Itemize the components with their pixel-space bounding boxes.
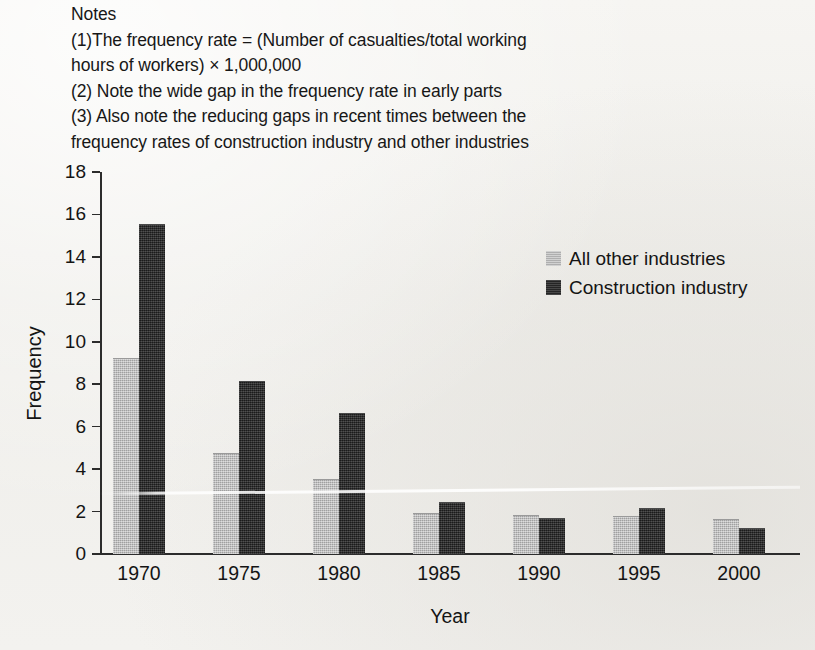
y-tick-0 — [92, 553, 100, 555]
y-tick-8 — [92, 383, 100, 385]
chart-legend: All other industries Construction indust… — [546, 244, 747, 302]
bar-1985-all-other-industries[interactable] — [413, 513, 439, 554]
bar-1995-all-other-industries[interactable] — [613, 516, 639, 554]
bar-1970-construction-industry[interactable] — [139, 224, 165, 554]
y-tick-2 — [92, 511, 100, 513]
bar-1970-all-other-industries[interactable] — [113, 358, 139, 554]
bar-group-1990 — [513, 172, 565, 554]
legend-item-all-other-industries[interactable]: All other industries — [546, 244, 747, 273]
bar-group-1995 — [613, 172, 665, 554]
notes-heading: Notes — [71, 2, 691, 28]
plot-area — [100, 172, 800, 554]
legend-item-construction-industry[interactable]: Construction industry — [546, 273, 747, 302]
note-line-2: (2) Note the wide gap in the frequency r… — [71, 79, 691, 105]
bar-1990-construction-industry[interactable] — [539, 518, 565, 554]
y-tick-16 — [92, 214, 100, 216]
x-tick-label-2000: 2000 — [679, 562, 799, 585]
y-tick-4 — [92, 468, 100, 470]
bar-group-1970 — [113, 172, 165, 554]
bar-group-1985 — [413, 172, 465, 554]
bar-1980-construction-industry[interactable] — [339, 413, 365, 554]
y-tick-label-2: 2 — [42, 501, 86, 523]
bar-2000-construction-industry[interactable] — [739, 528, 765, 554]
y-tick-14 — [92, 256, 100, 258]
y-tick-12 — [92, 299, 100, 301]
notes-block: Notes (1)The frequency rate = (Number of… — [71, 2, 691, 156]
bar-1975-construction-industry[interactable] — [239, 381, 265, 554]
y-tick-label-14: 14 — [42, 246, 86, 268]
y-tick-label-12: 12 — [42, 288, 86, 310]
y-tick-label-6: 6 — [42, 416, 86, 438]
note-line-3a: (3) Also note the reducing gaps in recen… — [71, 104, 691, 130]
bar-1985-construction-industry[interactable] — [439, 502, 465, 554]
bar-1980-all-other-industries[interactable] — [313, 479, 339, 554]
y-tick-label-8: 8 — [42, 373, 86, 395]
bar-group-1980 — [313, 172, 365, 554]
note-line-1a: (1)The frequency rate = (Number of casua… — [71, 28, 691, 54]
bar-1975-all-other-industries[interactable] — [213, 453, 239, 554]
bar-1990-all-other-industries[interactable] — [513, 515, 539, 554]
bar-2000-all-other-industries[interactable] — [713, 519, 739, 554]
note-line-1b: hours of workers) × 1,000,000 — [71, 53, 691, 79]
y-axis-title: Frequency — [23, 274, 46, 474]
y-tick-label-4: 4 — [42, 458, 86, 480]
y-tick-label-16: 16 — [42, 203, 86, 225]
y-tick-label-18: 18 — [42, 161, 86, 183]
bar-chart: 024681012141618 Frequency 19701975198019… — [0, 150, 815, 650]
bar-group-1975 — [213, 172, 265, 554]
legend-label-all-other-industries: All other industries — [569, 248, 725, 270]
y-tick-6 — [92, 426, 100, 428]
legend-swatch-dark-square — [546, 280, 561, 295]
y-tick-18 — [92, 171, 100, 173]
y-tick-10 — [92, 341, 100, 343]
legend-swatch-light-gray-square — [546, 251, 561, 266]
bar-1995-construction-industry[interactable] — [639, 508, 665, 554]
x-axis-title: Year — [100, 605, 800, 628]
bar-group-2000 — [713, 172, 765, 554]
legend-label-construction-industry: Construction industry — [569, 277, 747, 299]
y-tick-label-10: 10 — [42, 331, 86, 353]
